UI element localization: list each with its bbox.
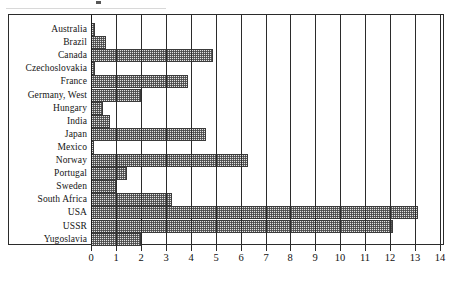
bar bbox=[91, 154, 248, 167]
category-label: Hungary bbox=[53, 102, 87, 115]
category-label: France bbox=[61, 75, 87, 88]
x-tick bbox=[116, 244, 117, 251]
x-tick bbox=[216, 244, 217, 251]
gridline-14 bbox=[440, 15, 441, 244]
gridline-12 bbox=[390, 15, 391, 244]
x-tick bbox=[390, 244, 391, 251]
category-label: Australia bbox=[51, 23, 87, 36]
category-label: USA bbox=[68, 206, 87, 219]
x-tick-label: 6 bbox=[238, 252, 243, 263]
bar bbox=[91, 128, 206, 141]
x-tick bbox=[166, 244, 167, 251]
gridline-0 bbox=[91, 15, 92, 244]
x-tick bbox=[315, 244, 316, 251]
x-tick bbox=[415, 244, 416, 251]
x-tick-label: 13 bbox=[410, 252, 421, 263]
gridline-10 bbox=[340, 15, 341, 244]
bar bbox=[91, 75, 188, 88]
category-label: Norway bbox=[56, 154, 87, 167]
x-tick bbox=[241, 244, 242, 251]
x-tick-label: 4 bbox=[188, 252, 193, 263]
scan-artifact-speck bbox=[96, 1, 101, 4]
bar bbox=[91, 36, 106, 49]
x-tick-label: 2 bbox=[138, 252, 143, 263]
bar bbox=[91, 180, 116, 193]
category-label: Japan bbox=[65, 128, 87, 141]
bar bbox=[91, 206, 418, 219]
category-label: South Africa bbox=[38, 193, 87, 206]
x-tick-label: 11 bbox=[360, 252, 370, 263]
category-label: Germany, West bbox=[28, 89, 87, 102]
x-tick-label: 12 bbox=[385, 252, 396, 263]
bar bbox=[91, 115, 110, 128]
x-tick-label: 3 bbox=[163, 252, 168, 263]
plot-area bbox=[91, 15, 440, 244]
x-tick-label: 5 bbox=[213, 252, 218, 263]
x-tick bbox=[266, 244, 267, 251]
scan-artifact-line bbox=[6, 8, 166, 9]
x-tick bbox=[440, 244, 441, 251]
gridline-2 bbox=[141, 15, 142, 244]
category-label: India bbox=[67, 115, 87, 128]
x-axis: 01234567891011121314 bbox=[91, 244, 440, 274]
category-label: Brazil bbox=[63, 36, 87, 49]
x-tick bbox=[290, 244, 291, 251]
x-tick bbox=[91, 244, 92, 251]
x-tick-label: 1 bbox=[113, 252, 118, 263]
bar bbox=[91, 193, 172, 206]
category-label: Sweden bbox=[56, 180, 87, 193]
gridline-7 bbox=[266, 15, 267, 244]
gridline-3 bbox=[166, 15, 167, 244]
category-label: Mexico bbox=[57, 141, 87, 154]
x-tick bbox=[340, 244, 341, 251]
gridline-13 bbox=[415, 15, 416, 244]
bar bbox=[91, 49, 213, 62]
bar bbox=[91, 102, 103, 115]
x-tick bbox=[141, 244, 142, 251]
gridline-11 bbox=[365, 15, 366, 244]
category-label: Portugal bbox=[54, 167, 87, 180]
x-tick bbox=[191, 244, 192, 251]
x-tick-label: 10 bbox=[335, 252, 346, 263]
x-tick-label: 8 bbox=[287, 252, 292, 263]
x-tick bbox=[365, 244, 366, 251]
gridline-8 bbox=[290, 15, 291, 244]
x-tick-label: 7 bbox=[263, 252, 268, 263]
category-label: USSR bbox=[63, 220, 87, 233]
gridline-1 bbox=[116, 15, 117, 244]
x-tick-label: 14 bbox=[435, 252, 446, 263]
gridline-6 bbox=[241, 15, 242, 244]
category-label: Yugoslavia bbox=[44, 233, 87, 246]
category-label: Canada bbox=[58, 49, 87, 62]
bar bbox=[91, 167, 127, 180]
category-label-column: AustraliaBrazilCanadaCzechoslovakiaFranc… bbox=[9, 15, 91, 244]
bar-chart: AustraliaBrazilCanadaCzechoslovakiaFranc… bbox=[0, 0, 452, 282]
x-tick-label: 0 bbox=[88, 252, 93, 263]
gridline-4 bbox=[191, 15, 192, 244]
gridline-5 bbox=[216, 15, 217, 244]
category-label: Czechoslovakia bbox=[25, 62, 87, 75]
x-tick-label: 9 bbox=[312, 252, 317, 263]
gridline-9 bbox=[315, 15, 316, 244]
